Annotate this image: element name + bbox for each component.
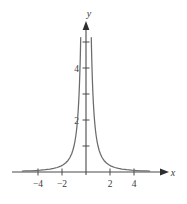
- curve-left-branch: [22, 38, 80, 171]
- figure-container: x y −4 −2 2 4: [0, 0, 187, 204]
- x-axis-label: x: [170, 167, 176, 178]
- function-plot: x y −4 −2 2 4: [0, 0, 187, 204]
- x-tick-label: −2: [57, 179, 67, 189]
- curve-right-branch: [91, 38, 149, 171]
- y-axis: y: [83, 8, 92, 175]
- x-axis-arrowhead: [160, 169, 169, 176]
- x-tick-label: 2: [108, 179, 113, 189]
- y-axis-label: y: [86, 8, 92, 19]
- y-tick-label: 4: [74, 64, 79, 74]
- x-axis: x: [12, 167, 176, 178]
- x-tick-label: −4: [33, 179, 43, 189]
- y-axis-arrowhead: [83, 21, 90, 30]
- x-tick-labels: −4 −2 2 4: [33, 179, 137, 189]
- x-tick-label: 4: [132, 179, 137, 189]
